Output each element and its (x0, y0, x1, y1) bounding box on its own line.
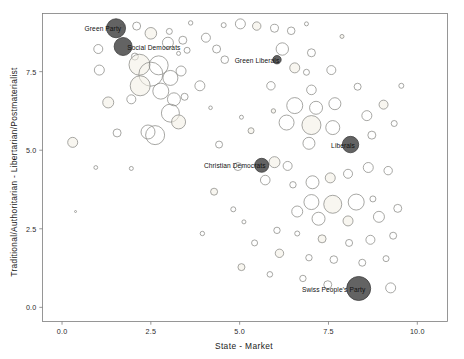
plot-canvas (0, 0, 464, 359)
data-point-bubble (238, 264, 245, 271)
party-label: Green Party (85, 25, 122, 32)
data-point-bubble (340, 34, 344, 38)
data-point-bubble (103, 97, 114, 108)
data-point-bubble (68, 137, 78, 147)
x-tick-label: 7.5 (323, 327, 334, 336)
data-point-bubble (379, 100, 388, 109)
data-point-bubble (325, 173, 335, 183)
bubble-chart-figure: 0.02.55.07.510.0 0.02.55.07.5 Green Part… (0, 0, 464, 359)
data-point-bubble (290, 63, 300, 73)
party-label: Liberals (331, 141, 355, 148)
data-point-bubble (130, 76, 150, 96)
data-point-bubble (129, 54, 150, 75)
y-axis-title: Traditional/Authoritarian - Libertarian/… (9, 12, 19, 332)
party-label: Swiss People's Party (302, 285, 365, 292)
x-tick-label: 5.0 (234, 327, 245, 336)
x-tick-label: 2.5 (146, 327, 157, 336)
data-point-bubble (275, 249, 283, 257)
data-point-bubble (211, 188, 218, 195)
party-label: Social Democrats (127, 43, 180, 50)
data-point-bubble (302, 116, 321, 135)
data-point-bubble (269, 157, 280, 168)
x-axis-title: State - Market (215, 341, 273, 351)
data-point-bubble (248, 128, 254, 134)
data-point-bubble (343, 216, 353, 226)
x-tick-label: 0.0 (57, 327, 68, 336)
data-point-bubble (172, 115, 186, 129)
x-tick-label: 10.0 (410, 327, 425, 336)
party-label: Christian Democrats (204, 162, 266, 169)
data-point-bubble (253, 22, 261, 30)
data-point-bubble (145, 28, 157, 40)
data-point-bubble (271, 109, 275, 113)
party-label: Green Liberals (235, 56, 280, 63)
data-point-bubble (318, 235, 326, 243)
y-axis-title-wrapper: Traditional/Authoritarian - Libertarian/… (0, 0, 24, 359)
data-point-bubble (324, 195, 342, 213)
